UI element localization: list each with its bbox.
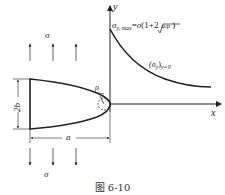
curve-label: (σy)y=0	[149, 61, 171, 70]
formula-rhs-open: (1+2	[141, 20, 158, 30]
rho-label: ρ	[95, 84, 99, 92]
curve-label-sub2: y=0	[161, 64, 171, 70]
sigma-top-label: σ	[45, 31, 49, 40]
y-axis-label: y	[113, 2, 117, 12]
x-axis-label: x	[211, 108, 215, 118]
formula-lhs-sub: y, max	[116, 25, 131, 31]
formula-rhs-close: )	[172, 20, 175, 30]
max-stress-formula: σy, max=σ(1+2a/ρ)	[112, 21, 175, 31]
figure-caption: 图 6-10	[0, 179, 225, 194]
sigma-bottom-label: σ	[44, 170, 48, 179]
formula-sqrt-content: a/ρ	[161, 22, 170, 30]
tip-radius-line	[100, 96, 104, 104]
dim-a-label: a	[66, 133, 71, 142]
curve-label-symbol: (σ	[149, 60, 156, 69]
dim-2b-label: 2b	[13, 103, 22, 112]
stress-distribution-curve	[110, 29, 211, 87]
